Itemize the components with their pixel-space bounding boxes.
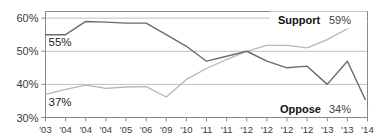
x-tick-label-8: '11 (201, 124, 213, 135)
line-chart: 30%40%50%60% '03'04'04'04'05'06'09'10'11… (0, 0, 378, 138)
x-tick-label-14: '13 (321, 124, 333, 135)
x-tick-label-10: '12 (241, 124, 253, 135)
annotation-oppose-start: 55% (49, 36, 72, 48)
y-tick-label-50: 50% (16, 45, 38, 57)
legend-support-label: Support (278, 14, 320, 26)
y-tick-label-40: 40% (16, 78, 38, 90)
x-tick-label-2: '04 (80, 124, 92, 135)
x-tick-label-0: '03 (39, 124, 51, 135)
x-tick-label-1: '04 (59, 124, 71, 135)
y-tick-label-60: 60% (16, 12, 38, 24)
x-tick-label-6: '09 (160, 124, 172, 135)
x-tick-label-16: '14 (361, 124, 373, 135)
legend-oppose-value: 34% (329, 103, 351, 115)
x-tick-label-12: '12 (281, 124, 293, 135)
x-tick-label-9: '11 (221, 124, 233, 135)
x-tick-label-5: '06 (140, 124, 152, 135)
legend-support: Support 59% (270, 12, 367, 29)
x-tick-label-4: '05 (120, 124, 132, 135)
y-tick-label-30: 30% (16, 112, 38, 124)
legend-oppose-label: Oppose (280, 103, 321, 115)
x-tick-label-11: '12 (261, 124, 273, 135)
x-tick-label-3: '04 (100, 124, 112, 135)
legend-oppose: Oppose 34% (272, 100, 367, 117)
x-tick-label-7: '10 (180, 124, 192, 135)
x-tick-label-15: '13 (341, 124, 353, 135)
chart-container: 30%40%50%60% '03'04'04'04'05'06'09'10'11… (0, 0, 378, 138)
x-tick-label-13: '12 (301, 124, 313, 135)
annotation-support-start: 37% (49, 96, 72, 108)
legend-support-value: 59% (329, 14, 351, 26)
x-axis-labels: '03'04'04'04'05'06'09'10'11'11'12'12'12'… (39, 124, 373, 135)
